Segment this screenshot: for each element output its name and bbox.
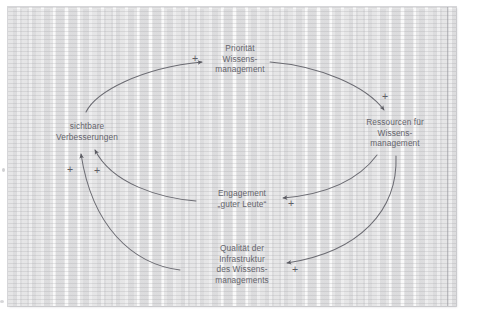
node-qualitaet-infrastruktur-wissensmanagements: Qualität der Infrastruktur des Wissens- … — [199, 243, 285, 285]
node-engagement-guter-leute: Engagement „guter Leute“ — [200, 188, 284, 209]
node-line: managements — [199, 275, 285, 286]
arrow-engagement-to-sichtbare — [95, 150, 196, 201]
arrow-prioritaet-to-ressourcen — [270, 62, 384, 110]
node-line: Qualität der — [199, 243, 285, 254]
node-line: „guter Leute“ — [200, 199, 284, 210]
node-line: Wissens- — [345, 128, 445, 139]
node-line: sichtbare — [35, 121, 139, 132]
plus-from-qualitaet-to-sichtbare-icon: + — [67, 164, 73, 175]
node-line: Verbesserungen — [35, 132, 139, 143]
node-line: des Wissens- — [199, 264, 285, 275]
node-line: management — [197, 64, 283, 75]
node-line: Wissens- — [197, 54, 283, 65]
plus-to-qualitaet-icon: + — [292, 264, 298, 275]
plus-to-ressourcen-icon: + — [382, 91, 388, 102]
node-line: Infrastruktur — [199, 254, 285, 265]
arrow-ressourcen-to-engagement — [283, 155, 377, 198]
node-prioritaet-wissensmanagement: Priorität Wissens- management — [197, 43, 283, 75]
node-sichtbare-verbesserungen: sichtbare Verbesserungen — [35, 121, 139, 142]
arrow-sichtbare-to-prioritaet — [86, 62, 202, 112]
arrow-ressourcen-to-qualitaet — [287, 156, 396, 263]
node-line: management — [345, 138, 445, 149]
node-line: Priorität — [197, 43, 283, 54]
plus-to-engagement-icon: + — [288, 198, 294, 209]
node-line: Ressourcen für — [345, 117, 445, 128]
node-ressourcen-fuer-wissensmanagement: Ressourcen für Wissens- management — [345, 117, 445, 149]
plus-from-engagement-to-sichtbare-icon: + — [94, 165, 100, 176]
diagram-page: Priorität Wissens- management Ressourcen… — [0, 0, 480, 330]
node-line: Engagement — [200, 188, 284, 199]
plus-to-prioritaet-icon: + — [192, 53, 198, 64]
